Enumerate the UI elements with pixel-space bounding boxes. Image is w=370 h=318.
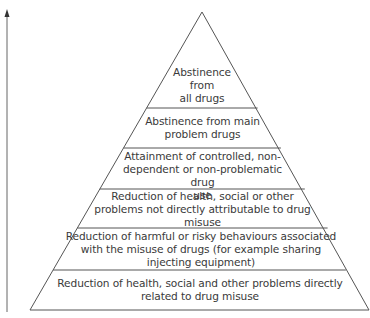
tier-5-risky-behaviours: Reduction of harmful or risky behaviours… <box>55 230 347 269</box>
tier-4-indirect-problems: Reduction of health, social or otherprob… <box>85 190 320 229</box>
tier-2-abstinence-main-drugs: Abstinence from mainproblem drugs <box>140 115 265 141</box>
tier-6-direct-problems: Reduction of health, social and other pr… <box>50 277 350 303</box>
arrow-up-icon <box>5 9 10 17</box>
tier-1-abstinence-all-drugs: Abstinencefromall drugs <box>152 66 252 105</box>
